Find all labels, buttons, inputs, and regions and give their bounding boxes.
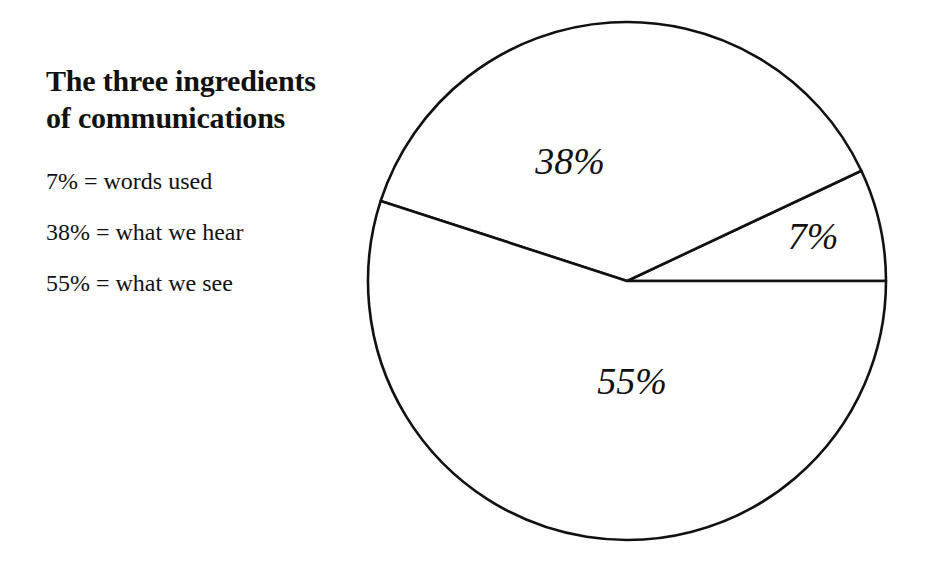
pie-slice-label: 38% <box>534 140 605 182</box>
pie-slices-group <box>368 22 886 540</box>
pie-chart: 7%38%55% <box>364 18 894 548</box>
pie-slice-label: 7% <box>788 215 839 257</box>
list-item: 55% = what we see <box>46 258 376 309</box>
legend-list: 7% = words used 38% = what we hear 55% =… <box>46 156 376 309</box>
list-item: 38% = what we hear <box>46 207 376 258</box>
pie-chart-figure: The three ingredients of communications … <box>0 0 936 563</box>
page-title: The three ingredients of communications <box>46 62 376 136</box>
legend-block: The three ingredients of communications … <box>46 62 376 309</box>
pie-chart-svg: 7%38%55% <box>364 18 894 548</box>
list-item: 7% = words used <box>46 156 376 207</box>
pie-slice-label: 55% <box>597 360 667 402</box>
